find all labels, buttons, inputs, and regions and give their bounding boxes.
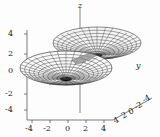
y-axis-label: y — [136, 62, 141, 70]
z-tick-4: 4 — [8, 30, 13, 38]
x-tick-0: 0 — [65, 125, 70, 133]
x-tick-2: 2 — [83, 125, 88, 133]
z-tick-2: 2 — [8, 50, 13, 58]
z-axis-label: z — [78, 2, 82, 10]
three-d-surface-plot: 4 2 0 -2 -4 -4 -2 0 2 4 4 2 0 -2 -4 z y … — [0, 0, 160, 137]
z-tick-minus4: -4 — [5, 106, 13, 114]
x-tick-minus2: -2 — [43, 125, 51, 133]
x-tick-minus4: -4 — [25, 125, 33, 133]
x-axis-label: x — [61, 72, 66, 80]
x-tick-4: 4 — [101, 125, 106, 133]
z-tick-0: 0 — [8, 67, 13, 75]
z-tick-minus2: -2 — [5, 90, 13, 98]
surface-mesh — [20, 27, 141, 85]
x-axis-ticks — [32, 120, 104, 123]
lower-funnel-sheet — [20, 51, 112, 85]
